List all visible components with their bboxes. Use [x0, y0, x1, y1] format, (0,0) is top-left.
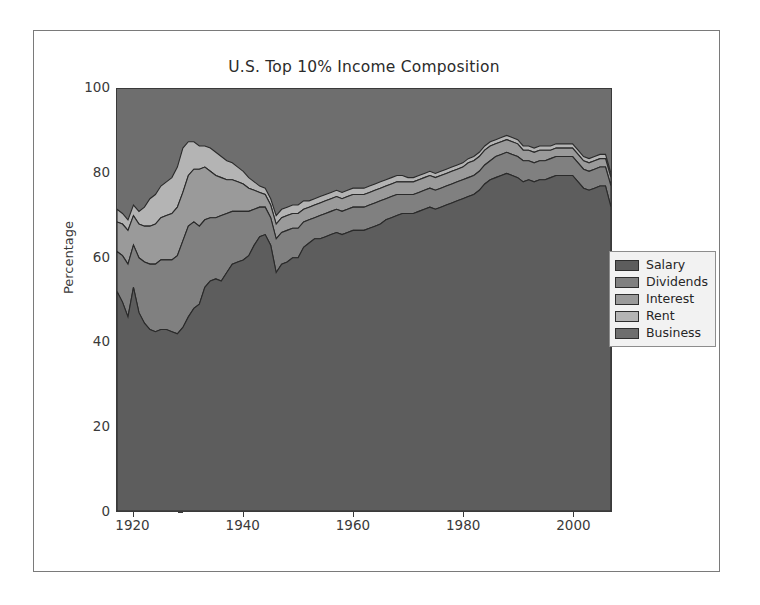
legend-item-business[interactable]: Business — [615, 325, 708, 341]
y-tick-label: 80 — [74, 166, 110, 180]
x-tick-label: 2000 — [543, 519, 603, 533]
legend-swatch-salary — [615, 260, 639, 271]
x-tick-label: 1960 — [323, 519, 383, 533]
legend-swatch-interest — [615, 294, 639, 305]
legend-swatch-rent — [615, 311, 639, 322]
legend-label: Business — [646, 327, 701, 340]
y-axis-tick-labels: 020406080100 — [68, 88, 110, 512]
x-tick-mark — [353, 512, 354, 517]
chart-figure: U.S. Top 10% Income Composition Percenta… — [0, 0, 760, 605]
legend-label: Salary — [646, 259, 685, 272]
x-tick-mark — [243, 512, 244, 517]
legend-item-rent[interactable]: Rent — [615, 308, 708, 324]
x-tick-mark — [573, 512, 574, 517]
legend-swatch-business — [615, 328, 639, 339]
legend-item-interest[interactable]: Interest — [615, 291, 708, 307]
chart-title: U.S. Top 10% Income Composition — [116, 58, 612, 76]
y-tick-label: 40 — [74, 335, 110, 349]
x-axis-tick-labels: 19201940196019802000 — [116, 512, 612, 542]
y-tick-label: 0 — [74, 505, 110, 519]
x-tick-label: 1920 — [103, 519, 163, 533]
y-tick-label: 20 — [74, 420, 110, 434]
legend-item-dividends[interactable]: Dividends — [615, 274, 708, 290]
legend-item-salary[interactable]: Salary — [615, 257, 708, 273]
plot-area — [116, 88, 612, 512]
legend-label: Dividends — [646, 276, 708, 289]
x-tick-mark — [133, 512, 134, 517]
legend-swatch-dividends — [615, 277, 639, 288]
stacked-area-svg — [117, 89, 611, 511]
y-tick-label: 60 — [74, 251, 110, 265]
x-tick-mark — [463, 512, 464, 517]
y-tick-label: 100 — [74, 81, 110, 95]
legend-label: Rent — [646, 310, 675, 323]
x-tick-label: 1980 — [433, 519, 493, 533]
chart-legend[interactable]: SalaryDividendsInterestRentBusiness — [609, 251, 716, 347]
legend-label: Interest — [646, 293, 694, 306]
x-tick-label: 1940 — [213, 519, 273, 533]
figure-page: U.S. Top 10% Income Composition Percenta… — [0, 0, 760, 605]
